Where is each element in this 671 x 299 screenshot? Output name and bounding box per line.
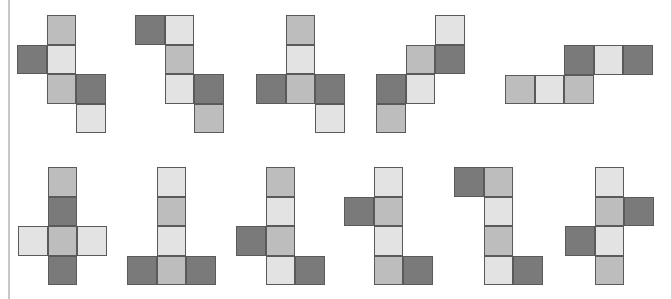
- net-square-mid: [47, 15, 77, 45]
- net-square-dark: [48, 197, 78, 227]
- net-square-dark: [135, 15, 165, 45]
- net-square-dark: [76, 74, 106, 104]
- net-square-mid: [157, 197, 187, 227]
- net-square-dark: [403, 256, 433, 286]
- net-square-light: [286, 45, 316, 75]
- net-square-light: [595, 167, 625, 197]
- net-square-light: [484, 256, 514, 286]
- net-square-light: [157, 167, 187, 197]
- net-square-light: [165, 15, 195, 45]
- net-square-dark: [565, 226, 595, 256]
- net-square-dark: [194, 74, 224, 104]
- net-square-light: [374, 226, 404, 256]
- net-square-dark: [295, 256, 325, 286]
- net-square-dark: [17, 45, 47, 75]
- net-square-light: [165, 74, 195, 104]
- net-square-light: [594, 45, 624, 75]
- net-square-light: [76, 104, 106, 134]
- net-square-dark: [513, 256, 543, 286]
- net-square-dark: [624, 197, 654, 227]
- net-square-dark: [315, 74, 345, 104]
- net-square-mid: [595, 256, 625, 286]
- net-square-light: [374, 167, 404, 197]
- net-square-light: [484, 197, 514, 227]
- net-square-mid: [564, 75, 594, 105]
- net-square-mid: [194, 104, 224, 134]
- net-square-mid: [505, 75, 535, 105]
- net-square-dark: [564, 45, 594, 75]
- net-square-light: [47, 45, 77, 75]
- net-square-light: [535, 75, 565, 105]
- net-square-mid: [595, 197, 625, 227]
- net-square-light: [266, 197, 296, 227]
- net-square-mid: [266, 226, 296, 256]
- net-square-dark: [344, 197, 374, 227]
- net-square-mid: [406, 45, 436, 75]
- net-square-light: [595, 226, 625, 256]
- net-square-mid: [286, 15, 316, 45]
- net-square-mid: [165, 45, 195, 75]
- net-square-dark: [236, 226, 266, 256]
- net-square-dark: [435, 45, 465, 75]
- net-square-light: [315, 104, 345, 134]
- net-square-mid: [47, 74, 77, 104]
- net-square-dark: [623, 45, 653, 75]
- net-square-mid: [266, 167, 296, 197]
- net-square-light: [266, 256, 296, 286]
- net-square-mid: [286, 74, 316, 104]
- net-square-mid: [484, 167, 514, 197]
- net-square-mid: [374, 256, 404, 286]
- net-square-light: [435, 15, 465, 45]
- net-square-dark: [256, 74, 286, 104]
- net-square-dark: [186, 256, 216, 286]
- net-square-light: [157, 226, 187, 256]
- net-square-dark: [454, 167, 484, 197]
- net-square-mid: [484, 226, 514, 256]
- net-square-mid: [376, 104, 406, 134]
- net-square-dark: [376, 74, 406, 104]
- left-margin-rule: [8, 0, 10, 299]
- net-square-mid: [374, 197, 404, 227]
- net-square-light: [406, 74, 436, 104]
- net-square-mid: [48, 167, 78, 197]
- net-square-mid: [157, 256, 187, 286]
- net-square-light: [18, 226, 48, 256]
- net-square-mid: [48, 226, 78, 256]
- net-square-dark: [48, 256, 78, 286]
- net-square-dark: [127, 256, 157, 286]
- net-square-light: [77, 226, 107, 256]
